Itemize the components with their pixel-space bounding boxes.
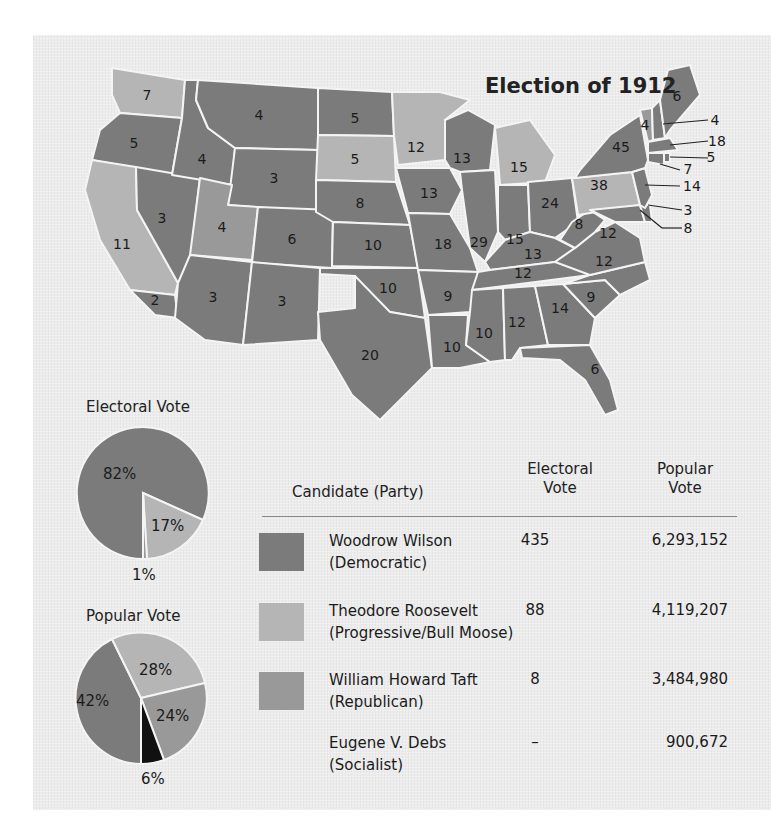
legend-swatch-progressive <box>259 603 304 641</box>
state-ri <box>664 153 670 162</box>
svg-text:4: 4 <box>711 112 720 128</box>
svg-text:7: 7 <box>684 161 693 177</box>
svg-text:3: 3 <box>158 210 167 226</box>
svg-text:8: 8 <box>684 220 693 236</box>
electoral-vote-pie <box>75 425 211 561</box>
svg-text:4: 4 <box>255 107 264 123</box>
svg-text:9: 9 <box>587 289 596 305</box>
svg-text:14: 14 <box>683 178 701 194</box>
svg-text:2: 2 <box>151 292 160 308</box>
svg-text:13: 13 <box>524 246 542 262</box>
svg-text:14: 14 <box>551 300 569 316</box>
svg-text:18: 18 <box>708 133 726 149</box>
svg-text:6: 6 <box>591 361 600 377</box>
svg-text:9: 9 <box>444 288 453 304</box>
popular-vote-value: 6,293,152 <box>620 531 728 549</box>
candidate-party: (Republican) <box>329 691 478 713</box>
header-popular-line2: Vote <box>645 479 725 498</box>
svg-text:10: 10 <box>379 280 397 296</box>
svg-text:45: 45 <box>612 139 630 155</box>
state-fl <box>520 345 618 415</box>
svg-text:5: 5 <box>130 135 139 151</box>
electoral-vote-value: – <box>505 733 565 751</box>
header-electoral-line1: Electoral <box>520 460 600 479</box>
electoral-roosevelt-pct: 17% <box>151 517 184 535</box>
svg-text:4: 4 <box>218 219 227 235</box>
state-ct <box>648 153 664 165</box>
electoral-taft-pct: 1% <box>132 566 156 584</box>
candidate-party: (Socialist) <box>329 754 446 776</box>
popular-roosevelt-pct: 28% <box>139 661 172 679</box>
table-row-debs: Eugene V. Debs (Socialist) <box>329 732 446 776</box>
electoral-vote-value: 435 <box>505 531 565 549</box>
svg-text:15: 15 <box>506 231 524 247</box>
header-popular: Popular Vote <box>645 460 725 498</box>
candidate-party: (Progressive/Bull Moose) <box>329 622 513 644</box>
svg-text:5: 5 <box>707 149 716 165</box>
header-divider <box>262 516 737 517</box>
table-row-wilson: Woodrow Wilson (Democratic) <box>329 530 452 574</box>
popular-vote-value: 3,484,980 <box>620 670 728 688</box>
svg-text:18: 18 <box>434 236 452 252</box>
candidate-name: Woodrow Wilson <box>329 530 452 552</box>
candidate-name: Theodore Roosevelt <box>329 600 513 622</box>
svg-text:13: 13 <box>420 185 438 201</box>
electoral-wilson-pct: 82% <box>103 465 136 483</box>
svg-text:20: 20 <box>361 347 379 363</box>
svg-text:12: 12 <box>595 253 613 269</box>
svg-text:3: 3 <box>209 289 218 305</box>
svg-text:3: 3 <box>270 170 279 186</box>
header-electoral-line2: Vote <box>520 479 600 498</box>
popular-vote-value: 900,672 <box>620 733 728 751</box>
svg-text:5: 5 <box>351 110 360 126</box>
svg-text:10: 10 <box>364 237 382 253</box>
svg-text:4: 4 <box>641 117 650 133</box>
candidate-name: William Howard Taft <box>329 669 478 691</box>
svg-text:12: 12 <box>599 225 617 241</box>
svg-text:29: 29 <box>470 234 488 250</box>
popular-wilson-pct: 42% <box>76 692 109 710</box>
header-candidate: Candidate (Party) <box>292 483 424 502</box>
svg-text:7: 7 <box>143 87 152 103</box>
svg-text:5: 5 <box>351 151 360 167</box>
svg-text:13: 13 <box>453 150 471 166</box>
legend-swatch-republican <box>259 672 304 710</box>
header-electoral: Electoral Vote <box>520 460 600 498</box>
electoral-pie-title: Electoral Vote <box>86 398 190 416</box>
table-row-taft: William Howard Taft (Republican) <box>329 669 478 713</box>
svg-text:8: 8 <box>575 216 584 232</box>
svg-text:4: 4 <box>198 151 207 167</box>
svg-text:12: 12 <box>508 314 526 330</box>
svg-text:10: 10 <box>443 339 461 355</box>
svg-text:3: 3 <box>278 293 287 309</box>
svg-text:38: 38 <box>590 177 608 193</box>
state-mi <box>495 120 555 185</box>
map-title: Election of 1912 <box>485 74 676 98</box>
state-ma <box>648 138 678 153</box>
svg-text:3: 3 <box>684 202 693 218</box>
popular-pie-title: Popular Vote <box>86 607 180 625</box>
candidate-name: Eugene V. Debs <box>329 732 446 754</box>
svg-text:8: 8 <box>356 195 365 211</box>
popular-debs-pct: 6% <box>141 770 165 788</box>
us-electoral-map: 7 5 11 2 3 4 4 3 4 6 3 3 5 5 8 10 10 20 … <box>0 0 784 440</box>
svg-text:12: 12 <box>407 139 425 155</box>
popular-vote-value: 4,119,207 <box>620 601 728 619</box>
legend-swatch-democratic <box>259 533 304 571</box>
svg-text:12: 12 <box>514 265 532 281</box>
candidate-party: (Democratic) <box>329 552 452 574</box>
svg-text:15: 15 <box>510 159 528 175</box>
table-row-roosevelt: Theodore Roosevelt (Progressive/Bull Moo… <box>329 600 513 644</box>
electoral-vote-value: 88 <box>505 601 565 619</box>
svg-text:24: 24 <box>541 195 559 211</box>
svg-text:11: 11 <box>113 236 131 252</box>
header-popular-line1: Popular <box>645 460 725 479</box>
svg-text:10: 10 <box>475 325 493 341</box>
popular-taft-pct: 24% <box>156 707 189 725</box>
svg-text:6: 6 <box>288 231 297 247</box>
electoral-vote-value: 8 <box>505 670 565 688</box>
